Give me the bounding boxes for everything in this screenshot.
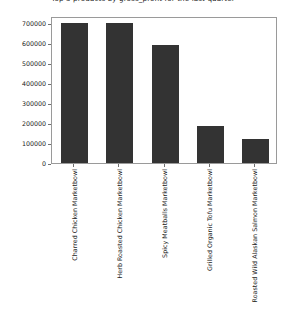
bar: [152, 45, 179, 163]
y-tick-label: 400000: [22, 80, 46, 87]
x-tick-mark: [254, 164, 255, 167]
x-tick-mark: [73, 164, 74, 167]
bar-chart-figure: Top 5 products by gross_profit for the l…: [0, 0, 286, 333]
y-tick-label: 600000: [22, 40, 46, 47]
x-tick-mark: [209, 164, 210, 167]
y-tick-label: 300000: [22, 100, 46, 107]
y-axis: 0100000200000300000400000500000600000700…: [0, 17, 51, 164]
plot-area: [51, 17, 277, 164]
y-tick-label: 0: [42, 160, 46, 167]
x-tick-label: Herb Roasted Chicken Marketbowl: [115, 169, 122, 278]
x-tick-label: Roasted Wild Alaskan Salmon Marketbowl: [251, 169, 258, 302]
bar: [106, 23, 133, 163]
y-tick-label: 700000: [22, 20, 46, 27]
bar: [242, 139, 269, 163]
x-tick-mark: [164, 164, 165, 167]
y-tick-label: 100000: [22, 140, 46, 147]
bar: [61, 23, 88, 163]
y-tick-label: 200000: [22, 120, 46, 127]
x-tick-label: Spicy Meatballs Marketbowl: [161, 169, 168, 258]
x-tick-label: Grilled Organic Tofu Marketbowl: [206, 169, 213, 271]
x-tick-mark: [118, 164, 119, 167]
chart-title: Top 5 products by gross_profit for the l…: [0, 0, 286, 3]
y-tick-label: 500000: [22, 60, 46, 67]
x-tick-label: Charred Chicken Marketbowl: [70, 169, 77, 261]
x-axis: Charred Chicken MarketbowlHerb Roasted C…: [51, 164, 277, 333]
bar: [197, 126, 224, 163]
